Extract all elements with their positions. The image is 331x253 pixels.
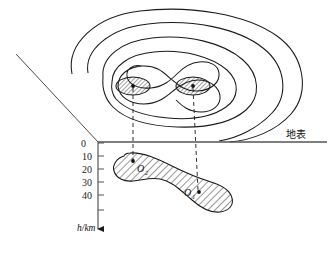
contour-map-group — [71, 9, 302, 142]
axis-tick-label-20: 20 — [82, 164, 92, 175]
magma-label-o1-main: O — [184, 187, 191, 198]
ground-surface-label: 地表 — [286, 128, 306, 140]
depth-axis — [98, 142, 104, 229]
projection-line-right — [193, 88, 198, 190]
vent-ellipse-left — [116, 77, 150, 95]
magma-label-o2-main: O — [137, 163, 144, 174]
geology-diagram-svg: 0 10 20 30 40 h/km 地表 O 2 O 1 — [0, 0, 331, 253]
magma-label-o1-sub: 1 — [192, 193, 195, 200]
perspective-edge-line — [16, 54, 98, 142]
vent-ellipse-right — [176, 77, 210, 95]
vent-point-left — [131, 84, 135, 88]
axis-tick-label-40: 40 — [82, 190, 92, 201]
diagram-canvas: 0 10 20 30 40 h/km 地表 O 2 O 1 — [0, 0, 331, 253]
vent-point-right — [191, 84, 195, 88]
depth-axis-title: h/km — [77, 223, 96, 233]
axis-tick-label-10: 10 — [82, 151, 92, 162]
magma-body-group — [114, 153, 233, 212]
contour-outer-1 — [71, 9, 302, 142]
axis-tick-label-0: 0 — [81, 138, 86, 149]
magma-point-o1 — [197, 190, 201, 194]
axis-tick-label-30: 30 — [82, 177, 92, 188]
